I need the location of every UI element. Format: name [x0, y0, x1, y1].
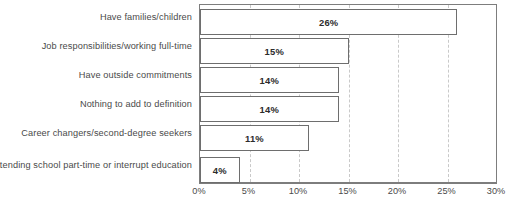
x-axis-tick-labels: 0% 5% 10% 15% 20% 25% 30%: [199, 186, 497, 206]
x-tick-label: 0%: [192, 186, 205, 196]
plot-area: 26% 15% 14% 14% 11% 4%: [199, 4, 497, 183]
bar-job-responsibilities[interactable]: 15%: [200, 38, 349, 64]
bar-value-label: 15%: [265, 46, 284, 57]
x-tick-label: 30%: [487, 186, 505, 196]
category-axis-labels: Have families/children Job responsibilit…: [0, 4, 196, 183]
x-tick-label: 20%: [388, 186, 406, 196]
x-tick-label: 15%: [338, 186, 356, 196]
x-tick-label: 10%: [289, 186, 307, 196]
bar-attending-part-time[interactable]: 4%: [200, 157, 240, 183]
category-label: Attending school part-time or interrupt …: [0, 152, 192, 178]
bar-nothing-to-add[interactable]: 14%: [200, 96, 339, 122]
bar-chart: Have families/children Job responsibilit…: [0, 0, 521, 215]
category-label: Nothing to add to definition: [80, 91, 192, 117]
x-axis-line: [199, 183, 497, 184]
bar-value-label: 11%: [245, 133, 264, 144]
bar-career-changers[interactable]: 11%: [200, 125, 309, 151]
bar-value-label: 4%: [213, 165, 227, 176]
bar-value-label: 26%: [319, 17, 338, 28]
bar-have-families-children[interactable]: 26%: [200, 9, 457, 35]
bar-outside-commitments[interactable]: 14%: [200, 67, 339, 93]
category-label: Have families/children: [100, 4, 192, 30]
bar-value-label: 14%: [260, 75, 279, 86]
x-tick-label: 25%: [437, 186, 455, 196]
bar-value-label: 14%: [260, 104, 279, 115]
category-label: Job responsibilities/working full-time: [42, 33, 192, 59]
category-label: Career changers/second-degree seekers: [21, 120, 192, 146]
x-tick-label: 5%: [242, 186, 255, 196]
category-label: Have outside commitments: [79, 62, 192, 88]
